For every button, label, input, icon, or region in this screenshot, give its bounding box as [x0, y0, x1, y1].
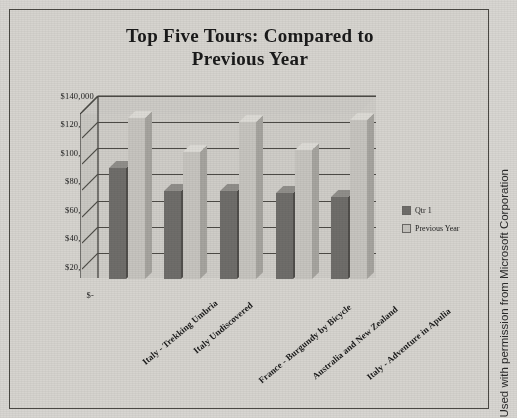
- legend-label: Previous Year: [415, 224, 459, 233]
- legend-swatch-icon: [402, 224, 411, 233]
- legend-item[interactable]: Qtr 1: [402, 206, 488, 215]
- x-axis-label: Italy - Trekking Umbria: [140, 298, 219, 367]
- bar-front-face: [239, 122, 256, 279]
- x-axis-labels: Italy - Trekking UmbriaItaly Undiscovere…: [70, 298, 430, 408]
- bar-previous-year[interactable]: [183, 152, 200, 279]
- bar-qtr1[interactable]: [331, 197, 348, 279]
- x-axis-label: France - Burgundy by Bicycle: [257, 302, 354, 385]
- bar-front-face: [164, 191, 181, 279]
- bar-front-face: [331, 197, 348, 279]
- plot-area: [98, 96, 376, 279]
- bar-group: [220, 96, 256, 279]
- bar-side-face: [145, 111, 152, 279]
- gridline-depth-connector: [82, 253, 100, 271]
- chart-legend: Qtr 1Previous Year: [402, 206, 488, 242]
- chart-title-line-1: Top Five Tours: Compared to: [40, 24, 460, 47]
- bar-front-face: [220, 191, 237, 279]
- chart-title: Top Five Tours: Compared to Previous Yea…: [40, 24, 460, 70]
- bar-front-face: [350, 120, 367, 279]
- bar-front-face: [109, 168, 126, 279]
- bar-qtr1[interactable]: [164, 191, 181, 279]
- legend-item[interactable]: Previous Year: [402, 224, 488, 233]
- gridline-depth-connector: [82, 227, 100, 245]
- gridline-depth-connector: [82, 174, 100, 192]
- bar-qtr1[interactable]: [276, 193, 293, 279]
- bar-group: [109, 96, 145, 279]
- bar-group: [331, 96, 367, 279]
- bar-previous-year[interactable]: [350, 120, 367, 279]
- chart-frame: Top Five Tours: Compared to Previous Yea…: [9, 9, 489, 409]
- bar-front-face: [128, 118, 145, 279]
- bar-side-face: [200, 145, 207, 279]
- bar-front-face: [295, 150, 312, 279]
- bar-qtr1[interactable]: [220, 191, 237, 279]
- bar-previous-year[interactable]: [239, 122, 256, 279]
- credit-text: Used with permission from Microsoft Corp…: [498, 163, 510, 418]
- gridline-depth-connector: [82, 201, 100, 219]
- gridline-depth-connector: [82, 148, 100, 166]
- bar-group: [276, 96, 312, 279]
- legend-label: Qtr 1: [415, 206, 432, 215]
- bar-qtr1[interactable]: [109, 168, 126, 279]
- gridline-depth-connector: [82, 96, 100, 114]
- bar-front-face: [183, 152, 200, 279]
- bar-previous-year[interactable]: [128, 118, 145, 279]
- bar-group: [164, 96, 200, 279]
- bar-side-face: [256, 115, 263, 279]
- x-axis-label: Australia and New Zealand: [310, 304, 399, 381]
- chart-title-line-2: Previous Year: [40, 47, 460, 70]
- bar-front-face: [276, 193, 293, 279]
- legend-swatch-icon: [402, 206, 411, 215]
- bar-side-face: [312, 143, 319, 279]
- bar-side-face: [367, 113, 374, 279]
- credit-note: Used with permission from Microsoft Corp…: [489, 0, 517, 418]
- gridline-depth-connector: [82, 122, 100, 140]
- bar-previous-year[interactable]: [295, 150, 312, 279]
